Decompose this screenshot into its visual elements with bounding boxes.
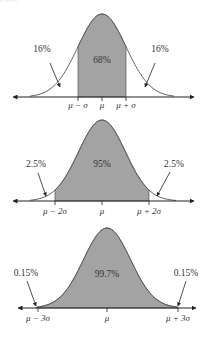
- right-tail-label: 0.15%: [174, 268, 199, 278]
- panel-3sigma: 99.7% 0.15% 0.15% μ − 3σ μ μ + 3σ: [14, 228, 199, 323]
- right-tail-arrow: [178, 281, 186, 306]
- left-tail-label: 16%: [33, 44, 51, 54]
- panel-1sigma: 68% 16% 16% μ − σ μ μ + σ: [13, 14, 194, 110]
- normal-distribution-figure: 68% 16% 16% μ − σ μ μ + σ 95% 2.5% 2.5% …: [0, 0, 202, 346]
- right-tail-arrow: [145, 63, 155, 87]
- left-tail-arrow: [50, 63, 60, 87]
- center-percent-label: 95%: [93, 159, 111, 169]
- tick-label-mu: μ: [99, 206, 105, 216]
- left-tail-label: 2.5%: [26, 159, 46, 169]
- panel-2sigma: 95% 2.5% 2.5% μ − 2σ μ μ + 2σ: [13, 120, 194, 216]
- left-tail-arrow: [27, 281, 36, 306]
- shaded-area: [36, 228, 178, 308]
- tick-label-minus: μ − 3σ: [25, 313, 51, 323]
- tick-label-plus: μ + 2σ: [136, 206, 162, 216]
- right-tail-label: 16%: [151, 44, 169, 54]
- right-tail-arrow: [157, 172, 170, 196]
- tick-label-plus: μ + σ: [115, 100, 136, 110]
- axis-ticks: [55, 201, 149, 205]
- tick-label-plus: μ + 3σ: [165, 313, 191, 323]
- tick-label-mu: μ: [104, 313, 110, 323]
- tick-label-minus: μ − σ: [67, 100, 88, 110]
- center-percent-label: 68%: [93, 55, 111, 65]
- left-tail-label: 0.15%: [14, 268, 39, 278]
- right-tail-label: 2.5%: [164, 159, 184, 169]
- axis-ticks: [38, 308, 178, 312]
- tick-label-minus: μ − 2σ: [42, 206, 68, 216]
- center-percent-label: 99.7%: [95, 269, 120, 279]
- left-tail-arrow: [38, 173, 46, 196]
- tick-label-mu: μ: [99, 100, 105, 110]
